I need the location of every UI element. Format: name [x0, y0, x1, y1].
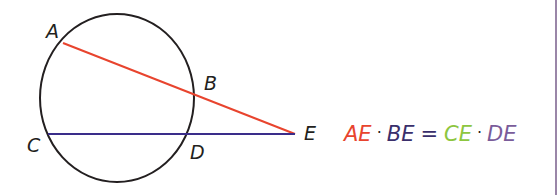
circle: [40, 14, 194, 182]
label-C: C: [27, 136, 40, 155]
right-border-rule: [555, 0, 557, 195]
label-A: A: [46, 22, 59, 41]
secant-diagram: [0, 0, 558, 195]
term-CE: CE: [444, 124, 472, 145]
term-BE: BE: [387, 124, 415, 145]
term-DE: DE: [487, 124, 516, 145]
dot-operator: ·: [477, 125, 482, 141]
equals-sign: =: [420, 124, 438, 145]
label-B: B: [204, 74, 217, 93]
label-D: D: [190, 143, 205, 162]
label-E: E: [304, 124, 316, 143]
secant-AE: [63, 43, 295, 134]
power-of-point-equation: AE·BE=CE·DE: [344, 124, 517, 145]
term-AE: AE: [344, 124, 372, 145]
dot-operator: ·: [377, 125, 382, 141]
